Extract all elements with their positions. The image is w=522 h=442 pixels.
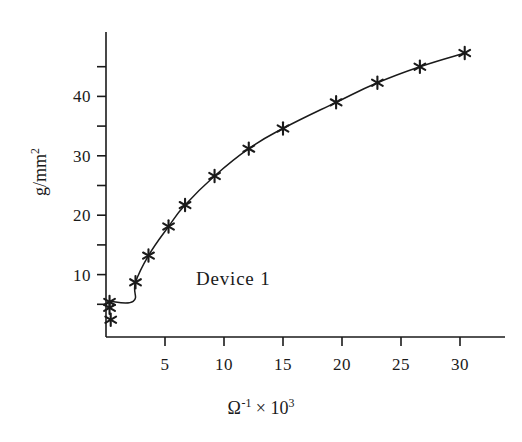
x-axis-title-exponent: -1 [241, 396, 251, 410]
x-axis-tick-label: 15 [274, 356, 292, 373]
data-point-marker [331, 96, 342, 108]
data-point-marker [372, 77, 383, 89]
data-point-marker [415, 61, 426, 73]
data-point-markers [104, 47, 470, 326]
data-point-marker [243, 142, 254, 154]
x-axis-tick-label: 10 [215, 356, 233, 373]
chart-figure: 10203040 51015202530 g/mm2 Ω-1 × 103 Dev… [0, 0, 522, 442]
y-axis-title-superscript: 2 [28, 148, 42, 154]
x-axis-tick-label: 20 [333, 356, 351, 373]
x-axis-title: Ω-1 × 103 [0, 396, 522, 419]
data-point-marker [278, 122, 289, 134]
data-point-marker [130, 276, 141, 288]
y-axis-title: g/mm2 [28, 148, 51, 196]
x-axis-tick-label: 25 [392, 356, 410, 373]
y-axis-ticks [97, 67, 106, 305]
x-axis-title-base-exponent: 3 [289, 396, 295, 410]
data-point-marker [143, 249, 154, 261]
x-axis-ticks [165, 337, 460, 346]
x-axis-tick-label: 30 [451, 356, 469, 373]
series-annotation-label: Device 1 [196, 268, 270, 290]
y-axis-tick-label: 20 [73, 207, 91, 224]
axes [106, 32, 505, 337]
y-axis-tick-label: 40 [73, 88, 91, 105]
data-point-marker [459, 47, 470, 59]
x-axis-title-symbol: Ω [228, 398, 242, 418]
y-axis-tick-label: 30 [73, 147, 91, 164]
data-point-marker [105, 314, 116, 326]
x-axis-tick-label: 5 [161, 356, 170, 373]
y-axis-tick-label: 10 [73, 266, 91, 283]
data-series-line [110, 53, 465, 303]
